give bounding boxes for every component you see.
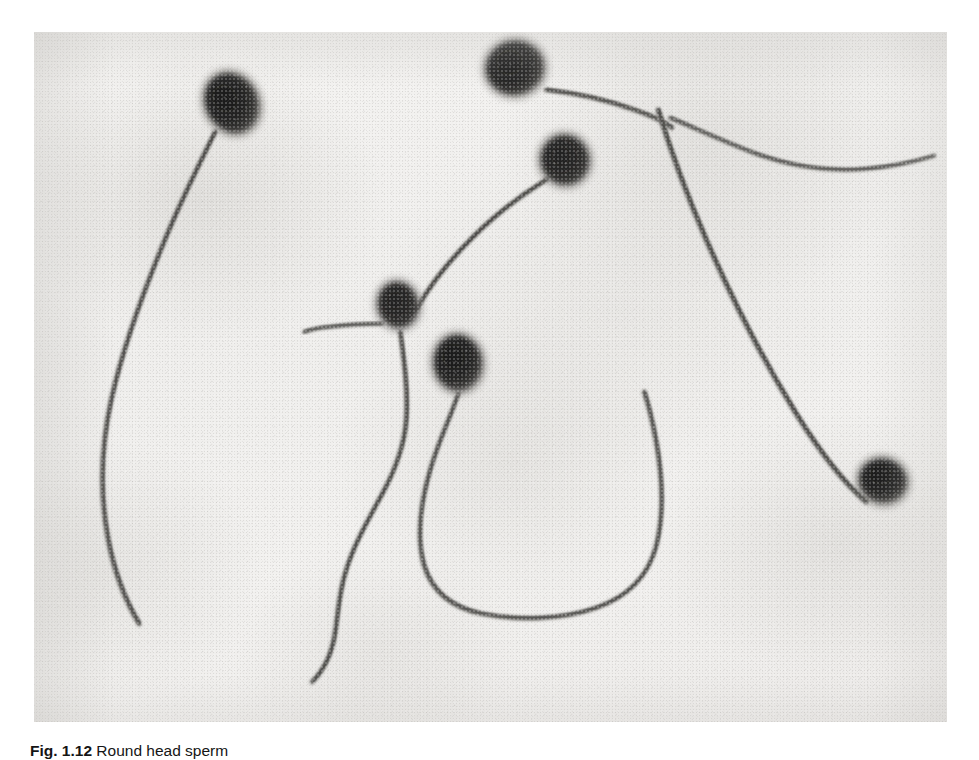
- micrograph-vignette: [34, 32, 947, 722]
- figure-caption-label: Fig. 1.12: [30, 742, 92, 759]
- figure-caption: Fig. 1.12 Round head sperm: [30, 741, 730, 760]
- figure-caption-text: Round head sperm: [96, 742, 228, 759]
- figure-block: Fig. 1.12 Round head sperm: [0, 0, 979, 760]
- sperm-micrograph-image: [34, 32, 947, 722]
